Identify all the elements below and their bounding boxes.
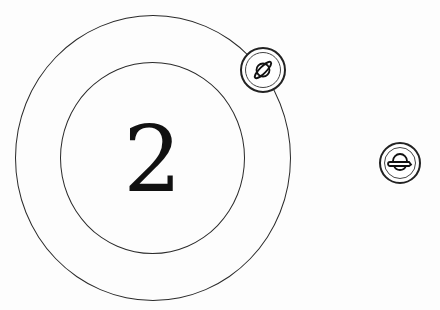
center-number: 2 [60,62,245,254]
planet-button[interactable] [379,142,421,184]
orbit-planet-button[interactable] [240,47,286,93]
game-board: 2 [0,0,440,310]
planet-tilted-icon [250,57,276,83]
planet-horizontal-icon [387,152,413,174]
